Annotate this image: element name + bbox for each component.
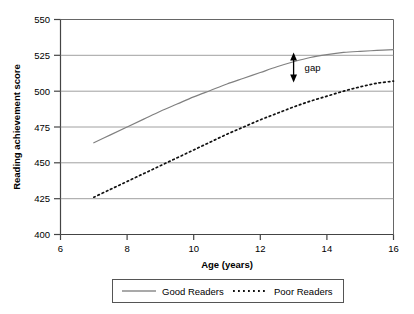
gap-annotation-label: gap	[305, 62, 321, 73]
legend-label-good-readers: Good Readers	[162, 286, 224, 297]
y-tick-label-550: 550	[34, 14, 50, 25]
x-tick-label-10: 10	[188, 243, 199, 254]
y-tick-label-500: 500	[34, 86, 50, 97]
reading-achievement-line-chart: 550 525 500 475 450 425 400 6 8 10 12 14…	[0, 0, 414, 314]
legend-label-poor-readers: Poor Readers	[274, 286, 333, 297]
x-axis-title: Age (years)	[201, 259, 253, 270]
x-tick-label-16: 16	[388, 243, 399, 254]
legend: Good Readers Poor Readers	[113, 280, 344, 303]
x-tick-label-6: 6	[58, 243, 63, 254]
y-tick-label-400: 400	[34, 229, 50, 240]
y-tick-label-475: 475	[34, 122, 50, 133]
x-tick-label-14: 14	[322, 243, 333, 254]
y-axis-title: Reading achievement score	[11, 64, 22, 190]
y-tick-label-425: 425	[34, 193, 50, 204]
x-tick-label-8: 8	[124, 243, 129, 254]
x-tick-label-12: 12	[255, 243, 266, 254]
y-tick-label-450: 450	[34, 157, 50, 168]
y-tick-label-525: 525	[34, 50, 50, 61]
